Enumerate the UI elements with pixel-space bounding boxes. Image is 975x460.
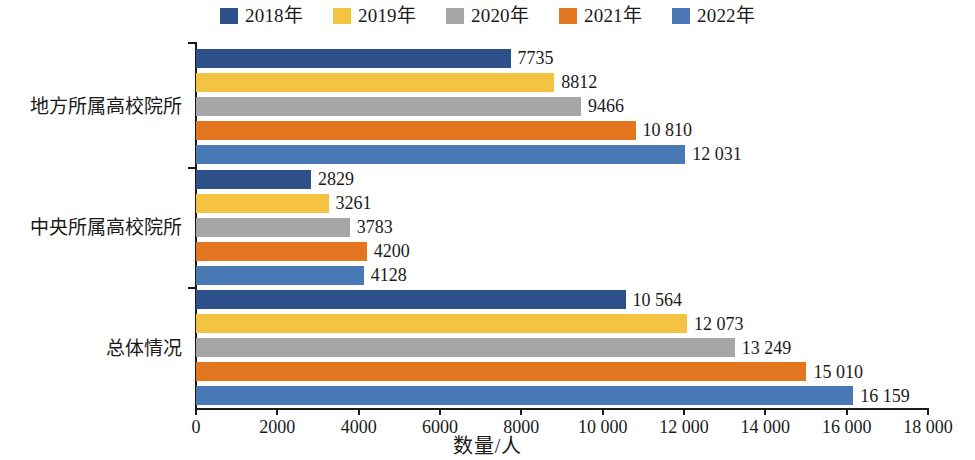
x-axis-tick <box>439 408 441 415</box>
legend-item-label: 2020年 <box>471 6 529 25</box>
bar-value-label: 10 810 <box>643 121 693 139</box>
y-axis-tick <box>188 287 196 289</box>
y-axis-tick <box>188 167 196 169</box>
bar <box>196 386 853 405</box>
bar <box>196 242 367 261</box>
x-axis-tick <box>927 408 929 415</box>
x-axis-tick <box>520 408 522 415</box>
category-label: 中央所属高校院所 <box>30 218 182 237</box>
legend-swatch-icon <box>559 8 577 24</box>
bar-value-label: 12 031 <box>692 145 742 163</box>
plot-area: 0200040006000800010 00012 00014 00016 00… <box>196 46 928 408</box>
bar-value-label: 7735 <box>518 49 554 67</box>
bar-value-label: 3261 <box>336 194 372 212</box>
bar <box>196 49 511 68</box>
legend-swatch-icon <box>333 8 351 24</box>
bar-value-label: 9466 <box>588 97 624 115</box>
legend-item-label: 2019年 <box>358 6 416 25</box>
bar <box>196 194 329 213</box>
legend-item[interactable]: 2020年 <box>446 6 529 25</box>
bar <box>196 362 806 381</box>
legend-swatch-icon <box>446 8 464 24</box>
legend-item[interactable]: 2022年 <box>672 6 755 25</box>
bar-value-label: 4128 <box>371 266 407 284</box>
bar-value-label: 2829 <box>318 170 354 188</box>
y-axis-tick-top <box>188 42 196 44</box>
bar <box>196 97 581 116</box>
category-axis-labels: 地方所属高校院所中央所属高校院所总体情况 <box>0 46 186 408</box>
bar-chart: 2018年2019年2020年2021年2022年 地方所属高校院所中央所属高校… <box>0 0 975 460</box>
x-axis-tick <box>846 408 848 415</box>
legend-swatch-icon <box>220 8 238 24</box>
legend-item[interactable]: 2021年 <box>559 6 642 25</box>
x-axis-tick <box>358 408 360 415</box>
legend-item[interactable]: 2019年 <box>333 6 416 25</box>
bar <box>196 145 685 164</box>
legend-swatch-icon <box>672 8 690 24</box>
category-label: 地方所属高校院所 <box>30 97 182 116</box>
x-axis-tick <box>195 408 197 415</box>
bar-value-label: 15 010 <box>813 363 863 381</box>
category-label: 总体情况 <box>106 338 182 357</box>
legend-item-label: 2022年 <box>697 6 755 25</box>
bar-value-label: 4200 <box>374 242 410 260</box>
bar <box>196 121 636 140</box>
x-axis-tick <box>276 408 278 415</box>
bar-value-label: 10 564 <box>633 291 683 309</box>
legend-item-label: 2018年 <box>245 6 303 25</box>
x-axis-tick <box>764 408 766 415</box>
x-axis-line <box>195 408 929 410</box>
bar <box>196 338 735 357</box>
x-axis-tick <box>683 408 685 415</box>
bar-value-label: 3783 <box>357 218 393 236</box>
chart-legend: 2018年2019年2020年2021年2022年 <box>0 6 975 25</box>
x-axis-tick <box>602 408 604 415</box>
bar <box>196 314 687 333</box>
legend-item-label: 2021年 <box>584 6 642 25</box>
bar-value-label: 13 249 <box>742 339 792 357</box>
bar <box>196 170 311 189</box>
bar <box>196 290 626 309</box>
x-axis-title: 数量/人 <box>0 430 975 459</box>
bar-value-label: 8812 <box>561 73 597 91</box>
bar-value-label: 16 159 <box>860 387 910 405</box>
bar-value-label: 12 073 <box>694 315 744 333</box>
bar <box>196 218 350 237</box>
bar <box>196 73 554 92</box>
legend-item[interactable]: 2018年 <box>220 6 303 25</box>
bar <box>196 266 364 285</box>
